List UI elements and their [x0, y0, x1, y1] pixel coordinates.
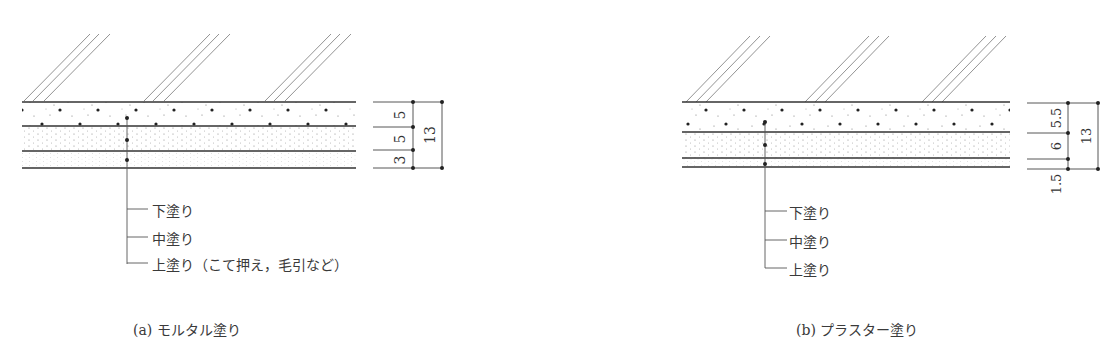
- caption-a: (a) モルタル塗り: [133, 319, 241, 339]
- label-a-middle-coat: 中塗り: [152, 228, 194, 248]
- dim-a-top: 5: [392, 111, 408, 120]
- label-b-middle-coat: 中塗り: [789, 231, 831, 251]
- hatch-icon: [24, 34, 351, 101]
- label-a-top-coat: 上塗り（こて押え，毛引など）: [152, 254, 348, 274]
- hatch-icon: [686, 36, 1006, 102]
- layer-base-coat: [682, 159, 1010, 166]
- layer-top-coat: [22, 102, 356, 126]
- diagram-canvas: 5 5 3 13 5.5 6 1.5 13: [0, 0, 1116, 361]
- figure-b-section: [682, 36, 1100, 268]
- layer-middle-coat: [682, 133, 1010, 158]
- dim-b-middle: 6: [1049, 142, 1064, 150]
- dim-a-middle: 5: [392, 135, 408, 144]
- dim-b-total: 13: [1079, 128, 1094, 145]
- dim-b-base: 1.5: [1049, 174, 1064, 195]
- layer-middle-coat: [22, 127, 356, 151]
- label-a-base-coat: 下塗り: [152, 200, 194, 220]
- caption-b: (b) プラスター塗り: [796, 319, 918, 339]
- figure-a-section: [22, 34, 444, 264]
- layer-base-coat: [22, 152, 356, 168]
- dim-a-total: 13: [422, 126, 438, 144]
- label-b-base-coat: 下塗り: [789, 202, 831, 222]
- dim-a-base: 3: [392, 156, 408, 165]
- label-b-top-coat: 上塗り: [789, 259, 831, 279]
- layer-top-coat: [682, 103, 1010, 132]
- dim-b-top: 5.5: [1049, 108, 1064, 129]
